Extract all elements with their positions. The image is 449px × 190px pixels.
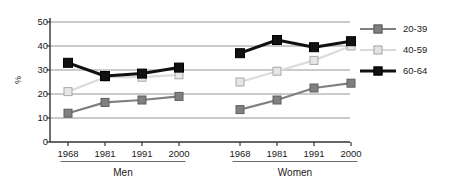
legend-swatch-20-39: [360, 23, 396, 35]
data-point-marker: [310, 56, 318, 64]
legend-swatch-40-59: [360, 44, 396, 56]
x-tick-label-women-3: 2000: [331, 148, 371, 159]
data-point-marker: [347, 79, 355, 87]
data-point-marker: [347, 37, 356, 46]
data-point-marker: [236, 106, 244, 114]
data-point-marker: [273, 96, 281, 104]
data-point-marker: [138, 96, 146, 104]
data-point-marker: [101, 72, 110, 81]
series-line-20-39: [68, 96, 179, 113]
legend-marker-icon: [374, 24, 383, 33]
data-point-marker: [138, 69, 147, 78]
legend-marker-icon: [374, 66, 383, 75]
data-point-marker: [64, 88, 72, 96]
legend-label-60-64: 60-64: [403, 66, 427, 76]
chart-container: % 50 40 30 20 10 0 1968 1981 1991 2000 1…: [0, 0, 449, 190]
legend-label-20-39: 20-39: [403, 24, 427, 34]
x-tick-label-women-0: 1968: [220, 148, 260, 159]
data-point-marker: [236, 49, 245, 58]
data-point-marker: [175, 63, 184, 72]
group-underline-women: [233, 161, 358, 162]
x-tick-label-men-2: 1991: [122, 148, 162, 159]
group-label-men: Men: [53, 167, 193, 178]
data-point-marker: [101, 98, 109, 106]
legend-swatch-60-64: [360, 65, 396, 77]
data-point-marker: [64, 109, 72, 117]
legend-item-20-39[interactable]: 20-39: [360, 18, 427, 39]
data-point-marker: [64, 58, 73, 67]
x-tick-label-women-1: 1981: [257, 148, 297, 159]
data-point-marker: [310, 84, 318, 92]
legend-item-40-59[interactable]: 40-59: [360, 39, 427, 60]
data-point-marker: [310, 43, 319, 52]
x-tick-label-men-0: 1968: [48, 148, 88, 159]
series-line-20-39: [240, 83, 351, 109]
x-tick-label-women-2: 1991: [294, 148, 334, 159]
legend-item-60-64[interactable]: 60-64: [360, 60, 427, 81]
data-point-marker: [273, 36, 282, 45]
series-line-60-64: [68, 63, 179, 76]
legend-label-40-59: 40-59: [403, 45, 427, 55]
group-label-women: Women: [225, 167, 365, 178]
x-tick-label-men-3: 2000: [159, 148, 199, 159]
x-tick-label-men-1: 1981: [85, 148, 125, 159]
group-underline-men: [61, 161, 186, 162]
data-point-marker: [236, 78, 244, 86]
series-line-40-59: [240, 46, 351, 82]
series-line-40-59: [68, 75, 179, 92]
series-line-60-64: [240, 40, 351, 53]
legend: 20-39 40-59 60-64: [360, 18, 427, 81]
data-point-marker: [273, 67, 281, 75]
legend-marker-icon: [374, 45, 383, 54]
data-point-marker: [175, 92, 183, 100]
